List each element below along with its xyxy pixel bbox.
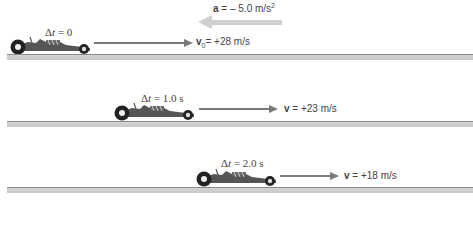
velocity-label: v0= +28 m/s [196, 36, 250, 49]
velocity-label: v = +23 m/s [284, 103, 337, 116]
velocity-arrow-shaft [280, 175, 332, 177]
velocity-value: = +28 m/s [205, 36, 249, 47]
velocity-arrow-shaft [94, 42, 186, 44]
acceleration-exponent: 2 [271, 2, 275, 9]
velocity-value: = +18 m/s [350, 170, 397, 181]
ground-line [7, 187, 473, 193]
velocity-label: v = +18 m/s [344, 170, 397, 183]
velocity-arrow-head [330, 172, 339, 180]
velocity-value: = +23 m/s [290, 103, 337, 114]
ground-line [7, 121, 473, 127]
ground-line [7, 54, 473, 60]
velocity-arrow-shaft [199, 108, 271, 110]
velocity-arrow-head [184, 39, 193, 47]
dragster-car-icon [6, 34, 94, 56]
acceleration-arrow-shaft [210, 20, 282, 25]
acceleration-value: = – 5.0 m/s [219, 3, 272, 14]
dragster-car-icon [110, 100, 198, 122]
velocity-arrow-head [269, 105, 278, 113]
dragster-car-icon [192, 166, 280, 188]
acceleration-label: a = – 5.0 m/s2 [213, 2, 275, 14]
